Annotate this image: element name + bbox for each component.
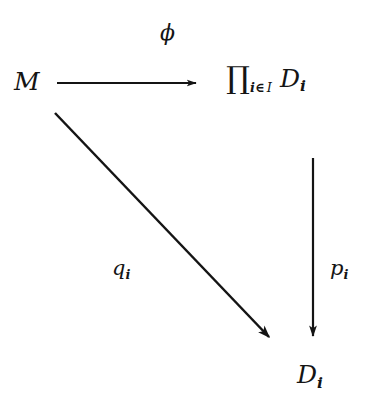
diagonal-arrow-q [55,113,269,337]
source-object-m: M [14,69,40,94]
product-factor-spacer [272,64,280,93]
arrow-label-p: pi [330,258,349,281]
target-object-d: Di [297,362,323,390]
p-symbol: p [330,256,343,280]
element-of-icon: ∈ [255,80,266,95]
product-symbol: ∏ [226,60,250,95]
product-factor: D [280,64,300,93]
p-subscript: i [343,267,348,282]
product-index-subscript: i∈I [250,80,272,95]
phi-symbol: ϕ [160,20,175,45]
target-object-label: D [297,360,317,389]
arrow-label-phi: ϕ [160,22,175,44]
arrow-label-q: qi [112,258,131,281]
source-object-label: M [14,67,40,96]
q-subscript: i [125,267,130,282]
product-object: ∏i∈I Di [226,63,306,94]
product-factor-subscript: i [300,76,306,95]
diagram-canvas [0,0,384,406]
target-object-subscript: i [317,373,323,392]
q-symbol: q [112,256,125,280]
